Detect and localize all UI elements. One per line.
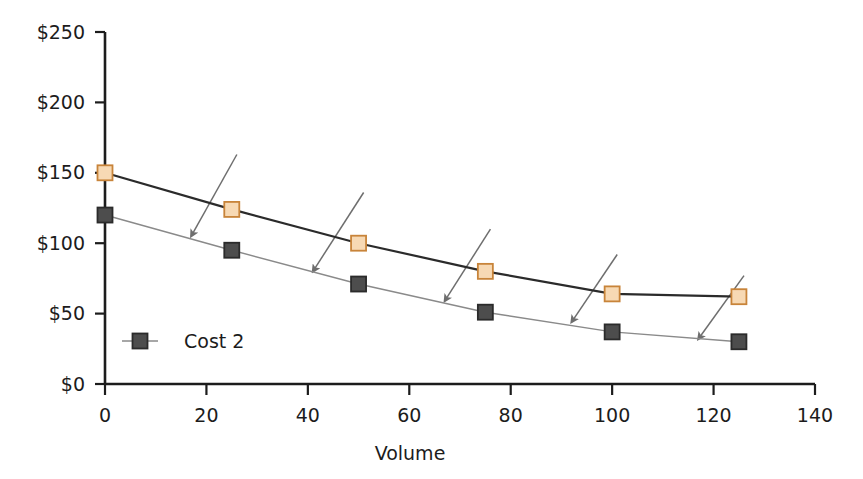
data-point-marker: [351, 277, 366, 292]
data-point-marker: [98, 165, 113, 180]
x-tick-label: 60: [397, 404, 421, 426]
data-point-marker: [224, 243, 239, 258]
x-tick-label: 20: [194, 404, 218, 426]
data-point-marker: [224, 202, 239, 217]
x-axis-title: Volume: [375, 442, 446, 464]
x-tick-label: 140: [797, 404, 833, 426]
data-series-group: [98, 165, 747, 349]
annotation-arrows: [191, 154, 744, 338]
line-chart: $0$50$100$150$200$250 020406080100120140…: [0, 0, 863, 479]
x-axis-title-group: Volume: [375, 442, 446, 464]
y-tick-label: $200: [37, 91, 85, 113]
x-tick-label: 0: [99, 404, 111, 426]
x-axis-ticks: 020406080100120140: [99, 384, 833, 426]
data-point-marker: [478, 264, 493, 279]
data-point-marker: [605, 324, 620, 339]
y-tick-label: $50: [49, 302, 85, 324]
chart-container: $0$50$100$150$200$250 020406080100120140…: [0, 0, 863, 479]
data-point-marker: [478, 305, 493, 320]
y-axis-ticks: $0$50$100$150$200$250: [37, 21, 105, 395]
y-tick-label: $250: [37, 21, 85, 43]
x-tick-label: 100: [594, 404, 630, 426]
y-tick-label: $100: [37, 232, 85, 254]
y-tick-label: $150: [37, 161, 85, 183]
data-point-marker: [351, 236, 366, 251]
data-point-marker: [98, 208, 113, 223]
annotation-arrow: [191, 154, 237, 236]
annotation-arrow: [698, 276, 744, 339]
x-tick-label: 80: [499, 404, 523, 426]
legend-label: Cost 2: [184, 330, 244, 352]
data-point-marker: [731, 289, 746, 304]
legend: Cost 2: [122, 330, 244, 352]
x-tick-label: 40: [296, 404, 320, 426]
y-tick-label: $0: [61, 373, 85, 395]
legend-marker: [133, 334, 148, 349]
series-line-cost-2: [105, 215, 739, 342]
data-point-marker: [731, 334, 746, 349]
x-tick-label: 120: [695, 404, 731, 426]
series-line-cost-1: [105, 173, 739, 297]
data-point-marker: [605, 286, 620, 301]
